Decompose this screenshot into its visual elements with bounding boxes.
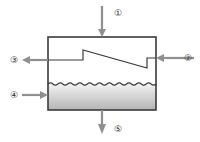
stream-1-arrow <box>98 6 106 37</box>
stream-1-arrowhead <box>98 29 106 37</box>
stream-4-arrowhead <box>40 91 48 99</box>
internal-baffle-line <box>48 50 156 68</box>
stream-4-label: ④ <box>10 90 18 100</box>
stream-3-label: ③ <box>10 55 18 65</box>
stream-5-label: ⑤ <box>114 124 122 134</box>
stream-3-arrowhead <box>22 56 30 64</box>
stream-5-arrow <box>98 110 106 134</box>
stream-2-arrowhead <box>156 54 164 62</box>
stream-3-arrow <box>22 56 48 64</box>
stream-5-arrowhead <box>98 124 106 134</box>
stream-2-label: ② <box>184 53 192 63</box>
stream-1-label: ① <box>114 8 122 18</box>
diagram-canvas: ①②③④⑤ <box>0 0 200 142</box>
liquid-phase-fill <box>48 84 156 110</box>
stream-4-arrow <box>22 91 48 99</box>
process-diagram: ①②③④⑤ <box>0 0 200 142</box>
